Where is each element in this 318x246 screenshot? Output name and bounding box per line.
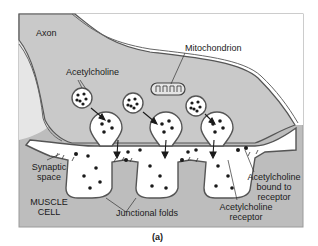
label-ach-receptor-line1: Acetylcholine (214, 202, 278, 212)
label-ach-bound-line1: Acetylcholine (242, 172, 306, 182)
figure-caption: (a) (152, 232, 163, 242)
label-mitochondrion: Mitochondrion (185, 43, 242, 53)
label-muscle-cell-line2: CELL (26, 207, 72, 217)
label-acetylcholine: Acetylcholine (66, 67, 119, 77)
label-axon: Axon (36, 28, 57, 38)
label-synaptic-space-line1: Synaptic (26, 162, 72, 172)
label-muscle-cell-line1: MUSCLE (26, 197, 72, 207)
mitochondrion (151, 83, 185, 95)
label-muscle-cell: MUSCLE CELL (26, 197, 72, 217)
label-ach-receptor-line2: receptor (214, 212, 278, 222)
label-junctional-folds: Junctional folds (116, 208, 178, 218)
label-ach-bound: Acetylcholine bound to receptor (242, 172, 306, 202)
label-ach-receptor: Acetylcholine receptor (214, 202, 278, 222)
label-ach-bound-line2: bound to (242, 182, 306, 192)
label-ach-bound-line3: receptor (242, 192, 306, 202)
label-synaptic-space-line2: space (26, 172, 72, 182)
label-synaptic-space: Synaptic space (26, 162, 72, 182)
